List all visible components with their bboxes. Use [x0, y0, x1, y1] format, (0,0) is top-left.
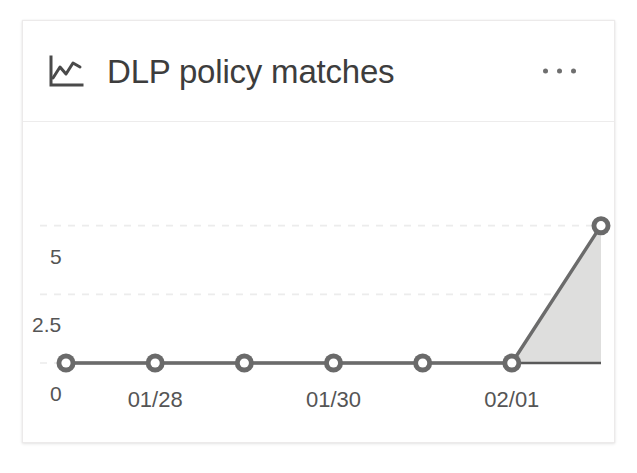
data-point-marker-center: [329, 358, 338, 367]
chart-plot-area: 02.55 01/2801/3002/01: [23, 122, 614, 442]
y-tick-label-2.5: 2.5: [32, 313, 61, 336]
dlp-matches-area-chart: 02.55 01/2801/3002/01: [23, 122, 614, 442]
overflow-dot-2: [557, 69, 562, 74]
y-tick-label-0: 0: [50, 382, 62, 405]
data-point-marker-center: [61, 358, 70, 367]
data-point-marker-center: [418, 358, 427, 367]
data-point-marker-center: [240, 358, 249, 367]
card-title: DLP policy matches: [107, 55, 394, 88]
overflow-menu-button[interactable]: [539, 61, 580, 82]
line-chart-icon: [47, 54, 85, 90]
data-point-marker-center: [507, 358, 516, 367]
x-tick-label-01-28: 01/28: [128, 387, 183, 412]
gridlines: [40, 226, 601, 363]
overflow-dot-1: [543, 69, 548, 74]
dlp-policy-matches-card: DLP policy matches 02.55 01/2801/3002/01: [22, 20, 615, 443]
x-axis-tick-labels: 01/2801/3002/01: [128, 387, 540, 412]
x-tick-label-01-30: 01/30: [306, 387, 361, 412]
data-point-marker-center: [151, 358, 160, 367]
y-tick-label-5: 5: [50, 245, 62, 268]
data-point-marker-center: [596, 221, 605, 230]
x-tick-label-02-01: 02/01: [484, 387, 539, 412]
overflow-dot-3: [571, 69, 576, 74]
card-header: DLP policy matches: [23, 21, 614, 122]
y-axis-tick-labels: 02.55: [32, 245, 62, 405]
